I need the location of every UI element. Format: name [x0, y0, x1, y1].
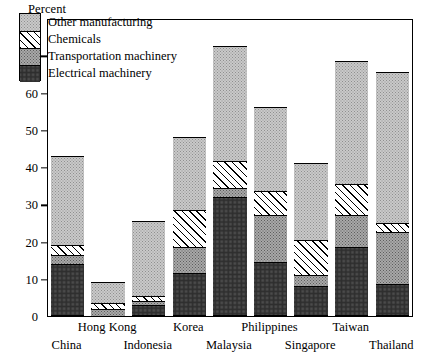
segment-philippines-electrical-machinery[interactable] — [254, 262, 288, 316]
segment-korea-transportation-machinery[interactable] — [173, 247, 207, 273]
bar-korea[interactable] — [173, 137, 206, 316]
segment-singapore-transportation-machinery[interactable] — [294, 275, 328, 286]
segment-malaysia-transportation-machinery[interactable] — [213, 188, 247, 197]
segment-hong-kong-transportation-machinery[interactable] — [91, 309, 125, 316]
segment-indonesia-chemicals[interactable] — [132, 296, 166, 302]
segment-philippines-chemicals[interactable] — [254, 191, 288, 215]
segment-taiwan-chemicals[interactable] — [335, 184, 369, 216]
y-tick-label-60: 60 — [12, 86, 38, 101]
segment-thailand-other-manufacturing[interactable] — [376, 72, 410, 223]
legend-swatch-chemicals — [20, 31, 40, 48]
chart-figure: Percent 80706050403020100 Other manufact… — [0, 0, 429, 357]
segment-malaysia-chemicals[interactable] — [213, 161, 247, 187]
x-tick-label-korea: Korea — [173, 320, 204, 335]
x-tick-label-hong-kong: Hong Kong — [78, 320, 137, 335]
legend-label-electrical-machinery: Electrical machinery — [48, 65, 152, 80]
legend-swatch-electrical-machinery — [20, 65, 40, 82]
bar-singapore[interactable] — [295, 163, 328, 316]
segment-hong-kong-chemicals[interactable] — [91, 303, 125, 309]
x-tick-label-indonesia: Indonesia — [123, 338, 172, 353]
y-tick-label-10: 10 — [12, 272, 38, 287]
segment-korea-other-manufacturing[interactable] — [173, 137, 207, 210]
legend-swatch-other-manufacturing — [20, 14, 40, 31]
y-tick-label-0: 0 — [12, 310, 38, 325]
segment-singapore-other-manufacturing[interactable] — [294, 163, 328, 239]
segment-thailand-electrical-machinery[interactable] — [376, 284, 410, 316]
plot-area — [47, 19, 413, 317]
bar-thailand[interactable] — [376, 72, 409, 316]
segment-malaysia-other-manufacturing[interactable] — [213, 46, 247, 161]
segment-korea-electrical-machinery[interactable] — [173, 273, 207, 316]
legend-label-chemicals: Chemicals — [48, 31, 101, 46]
bar-philippines[interactable] — [254, 107, 287, 316]
legend-label-other-manufacturing: Other manufacturing — [48, 14, 152, 29]
bar-hong-kong[interactable] — [92, 282, 125, 316]
x-tick-label-taiwan: Taiwan — [332, 320, 369, 335]
segment-philippines-transportation-machinery[interactable] — [254, 215, 288, 262]
segment-indonesia-electrical-machinery[interactable] — [132, 305, 166, 316]
y-tick-label-30: 30 — [12, 198, 38, 213]
segment-indonesia-other-manufacturing[interactable] — [132, 221, 166, 296]
segment-indonesia-transportation-machinery[interactable] — [132, 301, 166, 305]
segment-china-transportation-machinery[interactable] — [51, 255, 85, 264]
legend-swatch-transportation-machinery — [20, 48, 40, 65]
y-tick-label-50: 50 — [12, 123, 38, 138]
segment-singapore-electrical-machinery[interactable] — [294, 286, 328, 316]
segment-malaysia-electrical-machinery[interactable] — [213, 197, 247, 316]
segment-china-chemicals[interactable] — [51, 245, 85, 254]
y-tick-label-40: 40 — [12, 161, 38, 176]
x-tick-label-china: China — [52, 338, 82, 353]
bar-taiwan[interactable] — [335, 61, 368, 316]
legend-label-transportation-machinery: Transportation machinery — [48, 48, 177, 63]
segment-philippines-other-manufacturing[interactable] — [254, 107, 288, 191]
segment-thailand-transportation-machinery[interactable] — [376, 232, 410, 284]
y-tick-label-20: 20 — [12, 235, 38, 250]
legend-swatch-box — [19, 13, 41, 81]
segment-china-electrical-machinery[interactable] — [51, 264, 85, 316]
segment-taiwan-transportation-machinery[interactable] — [335, 215, 369, 247]
x-tick-label-malaysia: Malaysia — [206, 338, 252, 353]
x-tick-label-philippines: Philippines — [241, 320, 297, 335]
segment-korea-chemicals[interactable] — [173, 210, 207, 247]
segment-hong-kong-other-manufacturing[interactable] — [91, 282, 125, 302]
segment-thailand-chemicals[interactable] — [376, 223, 410, 232]
segment-taiwan-electrical-machinery[interactable] — [335, 247, 369, 316]
bar-malaysia[interactable] — [213, 46, 246, 316]
segment-singapore-chemicals[interactable] — [294, 240, 328, 275]
x-tick-label-singapore: Singapore — [285, 338, 336, 353]
segment-taiwan-other-manufacturing[interactable] — [335, 61, 369, 184]
bar-indonesia[interactable] — [132, 221, 165, 316]
x-tick-label-thailand: Thailand — [369, 338, 413, 353]
bar-china[interactable] — [51, 156, 84, 316]
segment-china-other-manufacturing[interactable] — [51, 156, 85, 245]
